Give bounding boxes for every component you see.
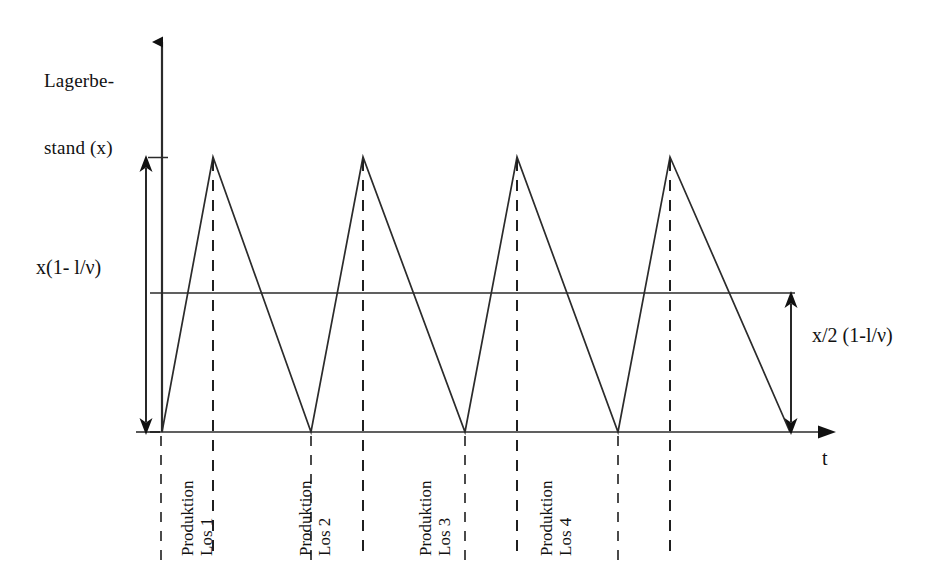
diagram-canvas [0,0,948,580]
y-axis-title-line-1: Lagerbe- [44,70,114,92]
x-axis-arrowhead [818,426,836,439]
lot-label-3: Los 3 [435,518,455,556]
lot-label-4: Los 4 [556,518,576,556]
lot-label-2: Los 2 [315,518,335,556]
right-dimension-label: x/2 (1-l/ν) [812,324,893,348]
y-axis-title: Lagerbe- stand (x) [44,25,114,204]
production-label-3: Produktion [416,480,436,556]
production-label-1: Produktion [178,480,198,556]
peak-marker-group [213,160,670,560]
production-label-2: Produktion [296,480,316,556]
x-axis-title: t [822,447,828,471]
x-axis [150,426,836,439]
left-dimension-arrow [136,155,160,435]
right-dimension-arrow [785,291,798,435]
lot-label-1: Los 1 [197,518,217,556]
inventory-sawtooth-figure: Lagerbe- stand (x) x(1- l/ν) x/2 (1-l/ν)… [0,0,948,580]
y-axis-title-line-2: stand (x) [44,137,114,159]
left-dimension-label: x(1- l/ν) [36,256,101,280]
inventory-sawtooth-curve [162,157,790,432]
production-label-4: Produktion [537,480,557,556]
